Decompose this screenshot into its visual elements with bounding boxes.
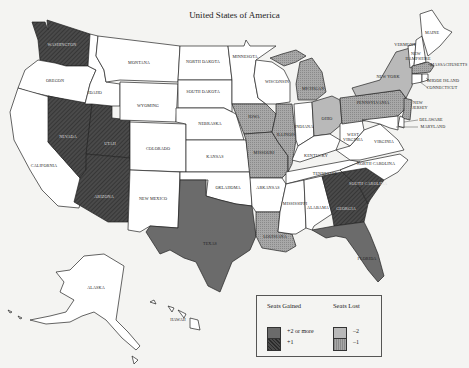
us-map: WASHINGTON OREGON CALIFORNIA NEVADA UTAH… (0, 0, 469, 368)
label-de: DELAWARE (419, 117, 443, 122)
label-ks: KANSAS (206, 154, 224, 159)
label-tx: TEXAS (203, 241, 218, 246)
legend-label-gain2: +2 or more (287, 328, 314, 334)
label-wy: WYOMING (137, 103, 159, 108)
label-mi: MICHIGAN (302, 86, 324, 91)
state-new-mexico (128, 170, 180, 232)
label-ne: NEBRASKA (198, 121, 221, 126)
label-nc: NORTH CAROLINA (357, 161, 395, 166)
label-ct: CONNECTICUT (427, 85, 458, 90)
label-or: OREGON (46, 78, 64, 83)
label-ia: IOWA (248, 114, 259, 119)
state-michigan (296, 58, 326, 100)
label-mo: MISSOURI (254, 150, 275, 155)
label-nh2: HAMPSHIRE (405, 56, 430, 61)
state-hawaii (150, 300, 200, 330)
label-oh: OHIO (322, 116, 333, 121)
state-arkansas (250, 178, 286, 212)
label-ca: CALIFORNIA (31, 163, 57, 168)
label-nj2: JERSEY (412, 105, 428, 110)
label-ky: KENTUCKY (304, 153, 328, 158)
label-va: VIRGINIA (374, 139, 394, 144)
label-mn: MINNESOTA (232, 54, 257, 59)
legend-gained-title: Seats Gained (267, 302, 301, 309)
label-sd: SOUTH DAKOTA (186, 89, 220, 94)
label-ar: ARKANSAS (256, 185, 280, 190)
label-ga: GEORGIA (336, 206, 356, 211)
label-co: COLORADO (146, 146, 170, 151)
label-ok: OKLAHOMA (215, 185, 240, 190)
legend-label-lost2: –2 (353, 328, 359, 334)
legend: Seats Gained Seats Lost +2 or more +1 –2… (256, 295, 382, 357)
label-sc: SOUTH CAROLINA (349, 181, 387, 186)
label-il: ILLINOIS (277, 132, 296, 137)
state-south-dakota (178, 80, 232, 112)
label-al: ALABAMA (307, 205, 329, 210)
label-me: MAINE (425, 30, 440, 35)
legend-lost-title: Seats Lost (333, 302, 360, 309)
label-md: MARYLAND (421, 124, 446, 129)
label-vt: VERMONT (394, 42, 416, 47)
label-hi: HAWAII (170, 317, 186, 322)
label-wi: WISCONSIN (265, 79, 289, 84)
state-wyoming (120, 82, 178, 122)
label-nm: NEW MEXICO (139, 196, 167, 201)
label-fl: FLORIDA (358, 256, 377, 261)
label-in: INDIANA (295, 124, 314, 129)
label-la: LOUISIANA (263, 234, 287, 239)
label-ri: RHODE ISLAND (427, 78, 459, 83)
state-delaware (398, 116, 404, 128)
label-ak: ALASKA (87, 285, 105, 290)
state-alaska (30, 254, 140, 350)
label-id: IDAHO (88, 90, 102, 95)
label-mt: MONTANA (128, 60, 150, 65)
label-wa: WASHINGTON (48, 42, 77, 47)
label-pa: PENNSYLVANIA (357, 100, 390, 105)
label-ms: MISSISSIPPI (283, 201, 308, 206)
label-ut: UTAH (104, 141, 116, 146)
label-tn: TENNESSEE (313, 171, 338, 176)
label-wv2: VIRGINIA (343, 137, 363, 142)
legend-swatch-gain1 (267, 338, 281, 351)
label-nv: NEVADA (59, 134, 77, 139)
legend-label-gain1: +1 (287, 339, 293, 345)
legend-swatch-lost1 (333, 338, 347, 351)
legend-label-lost1: –1 (353, 339, 359, 345)
label-ma: MASSACHUSETTS (431, 62, 468, 67)
state-montana (96, 36, 180, 82)
label-ny: NEW YORK (376, 74, 399, 79)
label-az: ARIZONA (94, 194, 114, 199)
label-nd: NORTH DAKOTA (186, 59, 220, 64)
state-florida (312, 222, 384, 282)
